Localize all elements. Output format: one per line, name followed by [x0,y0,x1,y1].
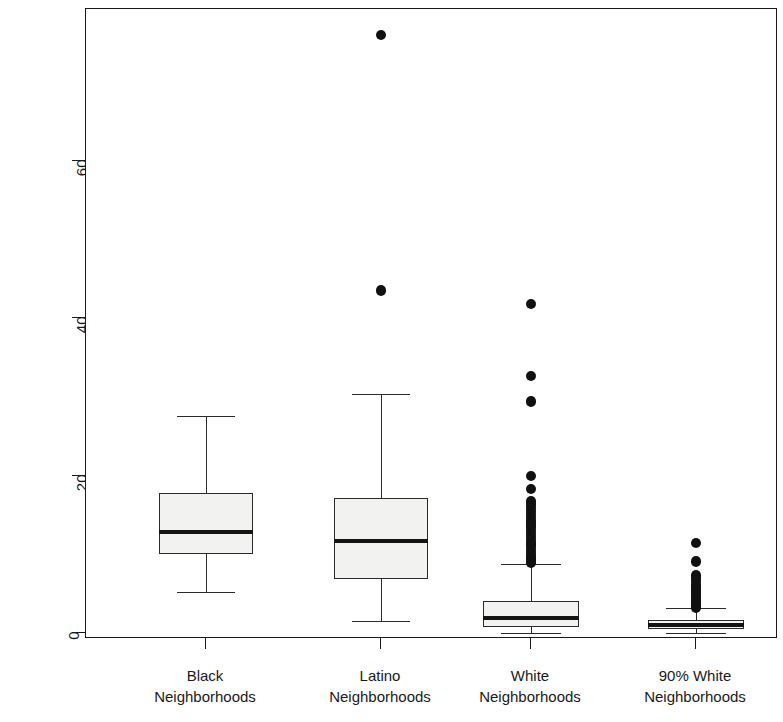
x-tick-mark [530,638,531,649]
x-axis-group-label-line2: Neighborhoods [329,686,431,707]
x-axis-group-label-line2: Neighborhoods [154,686,256,707]
x-axis-group-label-line2: Neighborhoods [479,686,581,707]
outlier-point [691,556,701,566]
x-axis-group-label-line1: White [479,665,581,686]
x-axis-group-label: LatinoNeighborhoods [329,665,431,707]
x-axis-group-label-line1: Black [154,665,256,686]
plot-area [85,8,777,638]
x-axis-group-label-line2: Neighborhoods [644,686,746,707]
median-line [648,623,744,627]
x-tick-mark [695,638,696,649]
x-axis-group-label-line1: 90% White [644,665,746,686]
x-axis-group-label: BlackNeighborhoods [154,665,256,707]
x-tick-mark [205,638,206,649]
x-axis-group-label: WhiteNeighborhoods [479,665,581,707]
x-tick-mark [380,638,381,649]
x-axis-group-label: 90% WhiteNeighborhoods [644,665,746,707]
outlier-point [691,602,701,612]
outlier-point [691,538,701,548]
x-axis-group-label-line1: Latino [329,665,431,686]
y-tick-label: 0 [65,632,82,640]
boxplot-figure: Prison Admission Rate 0204060 BlackNeigh… [0,0,783,722]
box-plot [86,9,776,637]
whisker-cap-lower [666,633,726,634]
